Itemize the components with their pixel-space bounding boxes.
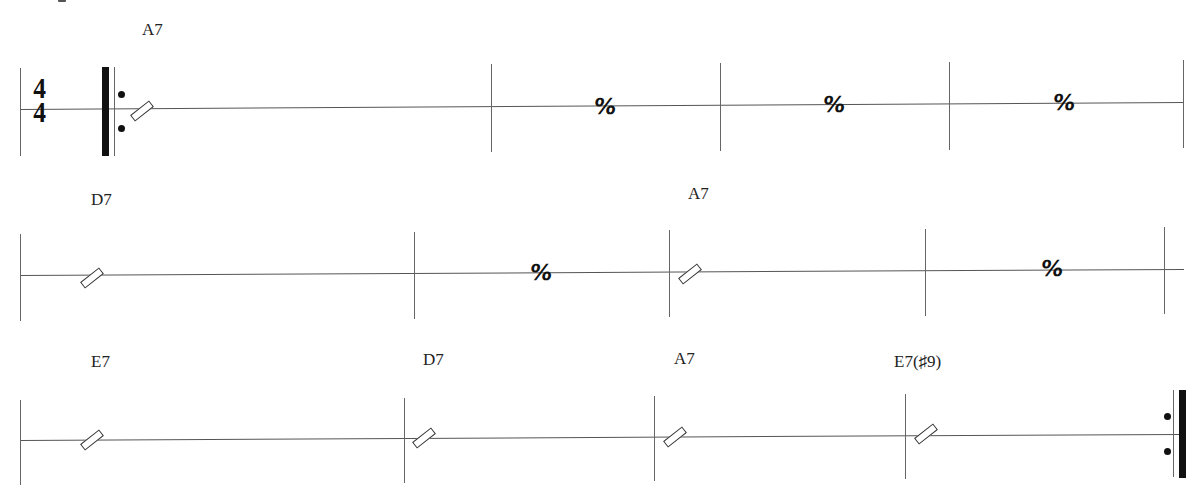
staff-line <box>20 269 1184 276</box>
chord-label: D7 <box>423 350 444 370</box>
barline <box>404 398 405 483</box>
measure-repeat-icon: % <box>528 260 554 285</box>
repeat-dot <box>1164 413 1171 420</box>
barline <box>905 394 906 479</box>
slash-notation-icon <box>80 267 104 288</box>
barline <box>669 230 670 317</box>
barline <box>925 229 926 316</box>
measure-repeat-icon: % <box>1051 90 1077 115</box>
repeat-end-thin-bar <box>1173 390 1174 477</box>
repeat-start-thin-bar <box>114 67 115 156</box>
chord-label: E7 <box>91 352 110 372</box>
chord-label: D7 <box>91 190 112 210</box>
chord-label: A7 <box>688 184 709 204</box>
barline <box>20 400 21 485</box>
chord-label: E7(♯9) <box>894 352 941 372</box>
repeat-dot <box>118 91 125 98</box>
barline <box>1183 60 1184 148</box>
staff-line <box>20 434 1180 441</box>
slash-notation-icon <box>678 263 702 284</box>
measure-repeat-icon: % <box>592 94 618 119</box>
barline <box>720 63 721 151</box>
barline <box>1164 227 1165 314</box>
chord-label: A7 <box>674 349 695 369</box>
barline <box>491 64 492 152</box>
time-signature-bottom: 4 <box>33 100 46 124</box>
barline <box>654 396 655 481</box>
time-signature: 4 4 <box>33 76 46 124</box>
barline <box>20 234 21 321</box>
repeat-dot <box>118 125 125 132</box>
chord-label: A7 <box>142 20 163 40</box>
slash-notation-icon <box>914 423 938 444</box>
barline <box>414 232 415 319</box>
repeat-end-thick-bar <box>1179 390 1186 478</box>
barline <box>20 68 21 156</box>
measure-repeat-icon: % <box>1039 256 1065 281</box>
barline <box>949 62 950 150</box>
repeat-start-thick-bar <box>102 67 109 156</box>
repeat-dot <box>1164 448 1171 455</box>
measure-repeat-icon: % <box>821 92 847 117</box>
slash-notation-icon <box>130 100 154 121</box>
cropped-glyph <box>58 0 66 2</box>
